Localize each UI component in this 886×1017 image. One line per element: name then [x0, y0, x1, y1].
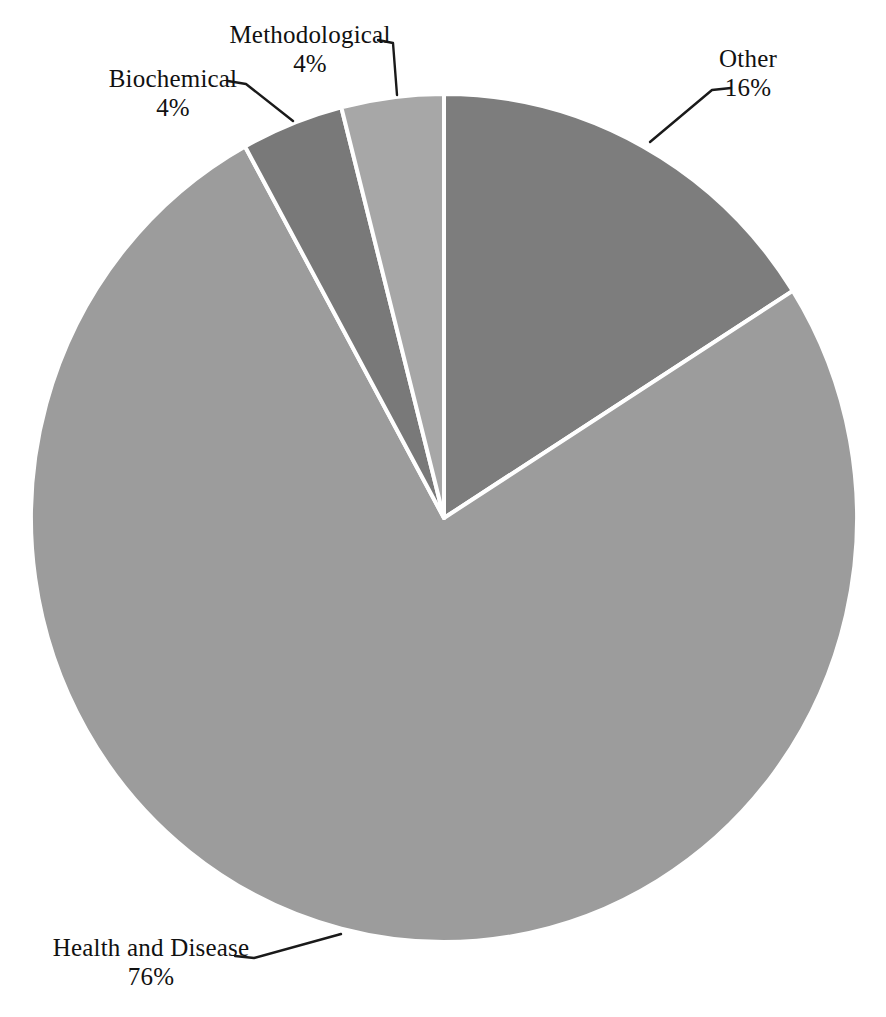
pie-slices-group — [31, 94, 857, 942]
slice-percent-other: 16% — [648, 73, 848, 102]
label-other: Other 16% — [648, 44, 848, 102]
slice-name-methodological: Methodological — [195, 20, 425, 49]
label-health-and-disease: Health and Disease 76% — [41, 933, 261, 991]
slice-name-biochemical: Biochemical — [63, 64, 283, 93]
slice-percent-health-and-disease: 76% — [41, 962, 261, 991]
pie-chart-svg — [0, 0, 886, 1017]
slice-percent-biochemical: 4% — [63, 93, 283, 122]
pie-chart-figure: Methodological 4% Biochemical 4% Other 1… — [0, 0, 886, 1017]
slice-name-other: Other — [648, 44, 848, 73]
label-biochemical: Biochemical 4% — [63, 64, 283, 122]
slice-name-health-and-disease: Health and Disease — [41, 933, 261, 962]
